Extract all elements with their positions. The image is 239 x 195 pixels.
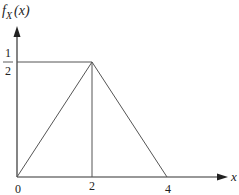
y-tick-denominator: 2 [5, 64, 11, 78]
y-axis-label: fX(x) [2, 3, 30, 21]
x-axis-label: x [230, 169, 237, 184]
x-tick-2: 2 [89, 179, 95, 193]
x-tick-0: 0 [15, 182, 21, 195]
x-tick-4: 4 [165, 182, 171, 195]
chart: fX(x) 1 2 0 2 4 x [0, 0, 239, 195]
y-axis-arrow-icon [14, 26, 21, 37]
y-tick-numerator: 1 [5, 46, 11, 60]
x-axis-arrow-icon [217, 174, 228, 181]
